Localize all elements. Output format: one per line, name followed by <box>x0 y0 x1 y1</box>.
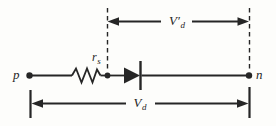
anode-terminal-dot <box>26 72 32 78</box>
arrowhead-right-icon <box>238 17 250 25</box>
terminal-p-label: p <box>13 68 20 81</box>
resistor-icon <box>72 69 101 83</box>
diode-icon <box>124 61 141 90</box>
arrowhead-right-icon <box>237 99 249 107</box>
cathode-terminal-dot <box>246 72 252 78</box>
terminal-n-label: n <box>256 68 263 81</box>
resistor-label: rs <box>92 51 101 66</box>
internal-voltage-label: V′d <box>163 14 191 30</box>
internal-node-dot <box>105 73 111 79</box>
terminal-voltage-label: Vd <box>127 96 153 112</box>
diode-model-diagram: p rs V′d n Vd <box>0 0 276 126</box>
